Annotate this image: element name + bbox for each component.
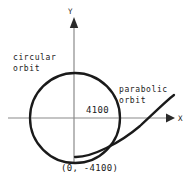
x-axis-label: X [178, 113, 183, 124]
orbit-diagram: circular orbit parabolic orbit 4100 (0, … [0, 0, 191, 187]
y-axis-label: Y [68, 6, 73, 17]
x-axis-arrowhead-icon [166, 114, 175, 123]
tangent-point-label: (0, -4100) [61, 163, 118, 174]
circular-orbit-label: circular orbit [13, 52, 56, 74]
y-axis-arrowhead-icon [70, 17, 78, 28]
parabolic-orbit-label: parabolic orbit [119, 84, 168, 106]
radius-value-label: 4100 [86, 105, 109, 116]
